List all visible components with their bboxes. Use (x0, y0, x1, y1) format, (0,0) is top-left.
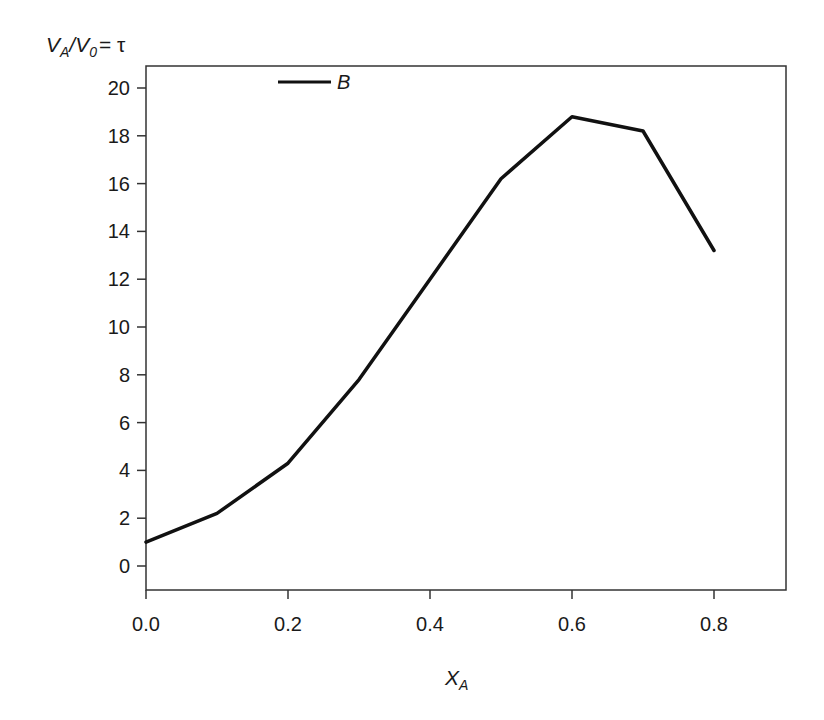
legend: B (278, 71, 350, 93)
y-tick-label: 8 (119, 364, 130, 386)
x-tick-label: 0.0 (132, 613, 160, 635)
x-tick-label: 0.8 (700, 613, 728, 635)
y-tick-label: 10 (108, 316, 130, 338)
x-axis-label: XA (444, 666, 468, 693)
x-tick-label: 0.6 (558, 613, 586, 635)
x-tick-label: 0.2 (274, 613, 302, 635)
line-chart: VA/V0= τ 02468101214161820 0.00.20.40.60… (0, 0, 824, 720)
x-axis-ticks: 0.00.20.40.60.8 (132, 590, 728, 635)
y-tick-label: 20 (108, 77, 130, 99)
x-tick-label: 0.4 (416, 613, 444, 635)
y-tick-label: 0 (119, 555, 130, 577)
y-axis-label: VA/V0= τ (46, 33, 126, 60)
y-tick-label: 14 (108, 220, 130, 242)
y-tick-label: 16 (108, 173, 130, 195)
legend-label: B (337, 71, 350, 93)
y-tick-label: 2 (119, 507, 130, 529)
y-tick-label: 4 (119, 459, 130, 481)
y-tick-label: 12 (108, 268, 130, 290)
y-axis-ticks: 02468101214161820 (108, 77, 146, 577)
series-line-b (146, 117, 714, 542)
y-tick-label: 6 (119, 412, 130, 434)
plot-frame (146, 66, 786, 590)
y-tick-label: 18 (108, 125, 130, 147)
